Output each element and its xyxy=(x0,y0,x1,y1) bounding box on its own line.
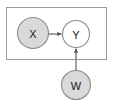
diagram-canvas: X Y W xyxy=(0,0,115,108)
node-x-label: X xyxy=(29,28,37,40)
node-w-label: W xyxy=(71,80,82,92)
causal-diagram: X Y W xyxy=(0,0,115,108)
node-y-label: Y xyxy=(72,29,80,41)
node-x[interactable]: X xyxy=(18,18,49,49)
node-y[interactable]: Y xyxy=(63,21,90,48)
node-w[interactable]: W xyxy=(62,71,91,100)
